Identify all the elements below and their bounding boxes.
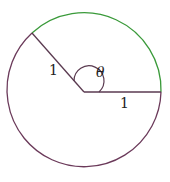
label-radius-right: 1 [120,95,129,111]
circle-highlight-arc [32,13,161,92]
label-radius-left: 1 [49,62,58,78]
radius-left [32,33,84,92]
circle-diagram: 1 1 θ [0,0,170,182]
label-angle-theta: θ [96,64,105,80]
circle-major-arc [7,33,161,167]
